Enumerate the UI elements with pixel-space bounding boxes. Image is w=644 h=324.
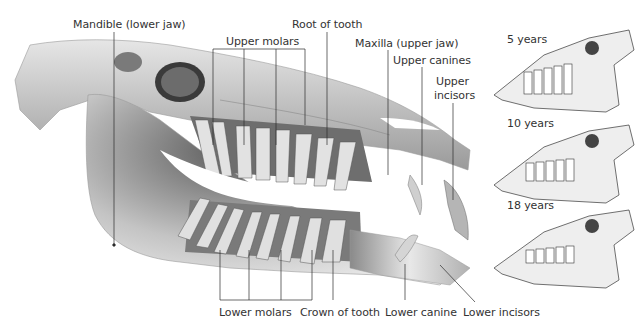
label-upper-incisors-1: Upper <box>436 75 469 88</box>
label-lower-canine: Lower canine <box>385 306 457 319</box>
label-root-of-tooth: Root of tooth <box>292 18 362 31</box>
label-upper-canines: Upper canines <box>393 54 471 67</box>
horse-skull-illustration <box>0 0 644 324</box>
label-crown-of-tooth: Crown of tooth <box>300 306 380 319</box>
age-panel-10-years <box>494 125 634 203</box>
label-maxilla: Maxilla (upper jaw) <box>355 37 458 50</box>
age-panel-18-years <box>494 210 634 288</box>
label-10-years: 10 years <box>507 117 554 130</box>
label-lower-incisors: Lower incisors <box>463 306 540 319</box>
label-upper-incisors-2: incisors <box>434 89 475 102</box>
label-lower-molars: Lower molars <box>219 306 292 319</box>
label-18-years: 18 years <box>507 199 554 212</box>
label-mandible: Mandible (lower jaw) <box>73 18 186 31</box>
label-upper-molars: Upper molars <box>226 35 299 48</box>
label-5-years: 5 years <box>507 33 547 46</box>
